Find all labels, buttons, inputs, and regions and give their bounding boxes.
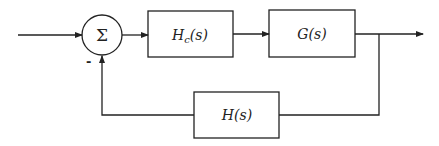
controller-label: Hc(s)	[171, 27, 208, 45]
block-diagram: Σ - Hc(s) G(s) H(s)	[0, 0, 439, 146]
sigma-symbol: Σ	[96, 25, 108, 45]
feedback-block: H(s)	[194, 92, 279, 138]
feedback-branch-line	[279, 34, 379, 115]
plant-label: G(s)	[297, 26, 326, 42]
feedback-return-arrow	[102, 56, 194, 115]
feedback-sign: -	[86, 54, 91, 69]
feedback-label: H(s)	[221, 107, 252, 123]
controller-block: Hc(s)	[148, 11, 233, 57]
summing-junction: Σ	[82, 15, 122, 55]
plant-block: G(s)	[269, 10, 355, 57]
